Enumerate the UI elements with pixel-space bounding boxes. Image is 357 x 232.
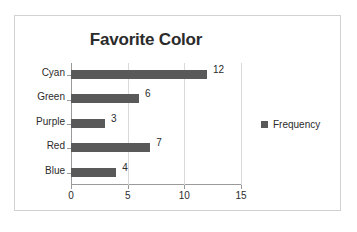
x-axis-tick-0 bbox=[71, 185, 72, 189]
data-label-purple: 3 bbox=[111, 113, 117, 124]
x-axis-label-10: 10 bbox=[179, 190, 190, 201]
x-axis-label-0: 0 bbox=[68, 190, 74, 201]
bar-green[interactable] bbox=[71, 94, 139, 103]
data-label-green: 6 bbox=[145, 88, 151, 99]
bar-red[interactable] bbox=[71, 143, 150, 152]
category-label-red: Red bbox=[47, 140, 65, 151]
data-label-blue: 4 bbox=[122, 162, 128, 173]
plot-area: 051015Cyan12Green6Purple3Red7Blue4 bbox=[71, 63, 241, 185]
x-axis-tick-15 bbox=[241, 185, 242, 189]
data-label-red: 7 bbox=[156, 137, 162, 148]
category-label-green: Green bbox=[37, 91, 65, 102]
frequency-swatch-icon bbox=[261, 121, 268, 128]
bar-blue[interactable] bbox=[71, 168, 116, 177]
x-axis-tick-5 bbox=[128, 185, 129, 189]
legend-label-frequency: Frequency bbox=[273, 119, 320, 130]
bar-row: Green6 bbox=[71, 87, 241, 111]
bar-row: Purple3 bbox=[71, 112, 241, 136]
chart-title: Favorite Color bbox=[15, 30, 277, 50]
bar-row: Red7 bbox=[71, 136, 241, 160]
category-label-cyan: Cyan bbox=[42, 67, 65, 78]
bar-purple[interactable] bbox=[71, 119, 105, 128]
x-axis-label-5: 5 bbox=[125, 190, 131, 201]
bar-cyan[interactable] bbox=[71, 70, 207, 79]
bar-row: Cyan12 bbox=[71, 63, 241, 87]
data-label-cyan: 12 bbox=[213, 64, 224, 75]
bar-row: Blue4 bbox=[71, 161, 241, 185]
x-axis-tick-10 bbox=[184, 185, 185, 189]
category-label-blue: Blue bbox=[45, 165, 65, 176]
x-axis-label-15: 15 bbox=[235, 190, 246, 201]
chart-legend: Frequency bbox=[261, 119, 320, 130]
category-label-purple: Purple bbox=[36, 116, 65, 127]
chart-container: Favorite Color 051015Cyan12Green6Purple3… bbox=[14, 15, 341, 211]
gridline-15 bbox=[241, 63, 242, 185]
